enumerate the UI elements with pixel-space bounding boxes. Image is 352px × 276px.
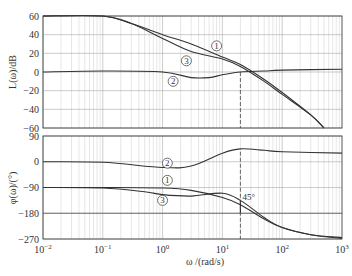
x-tick-label: 101 — [216, 243, 230, 255]
curve-label: 2 — [171, 76, 176, 86]
curve-label: 3 — [160, 195, 165, 205]
y-tick-label: −90 — [23, 182, 39, 193]
curve-② — [43, 69, 342, 78]
x-tick-label: 103 — [335, 243, 349, 255]
x-tick-label: 10−2 — [34, 243, 52, 255]
y-tick-label: 0 — [34, 67, 39, 78]
curve-label: 3 — [184, 56, 189, 66]
y-tick-label: 40 — [29, 29, 39, 40]
y-tick-label: 60 — [29, 11, 39, 22]
y-tick-label: 0 — [34, 156, 39, 167]
y-tick-label: −40 — [23, 104, 39, 115]
x-tick-label: 102 — [275, 243, 289, 255]
x-axis-label: ω /(rad/s) — [186, 256, 224, 268]
axes-frames — [43, 16, 342, 239]
y-tick-label: 20 — [29, 48, 39, 59]
bode-plot: 12312345° 6040200−20−40−60900−90−180−270… — [0, 0, 352, 276]
grid — [43, 16, 342, 239]
x-tick-label: 10−1 — [94, 243, 112, 255]
curves: 12312345° — [43, 15, 342, 239]
y-tick-label: −180 — [18, 208, 39, 219]
mag-ylabel: L(ω)/dB — [7, 55, 19, 89]
phase-margin-label: 45° — [242, 192, 255, 202]
curve-② — [43, 149, 342, 168]
x-tick-label: 100 — [156, 243, 170, 255]
y-tick-label: −270 — [18, 234, 39, 245]
tick-labels: 6040200−20−40−60900−90−180−27010−210−110… — [18, 11, 349, 256]
phase-ylabel: φ(ω)/(°) — [7, 172, 19, 204]
y-tick-label: −20 — [23, 85, 39, 96]
curve-label: 1 — [165, 175, 170, 185]
curve-label: 1 — [214, 41, 219, 51]
curve-① — [43, 187, 342, 237]
curve-label: 2 — [165, 158, 170, 168]
y-tick-label: 90 — [29, 131, 39, 142]
